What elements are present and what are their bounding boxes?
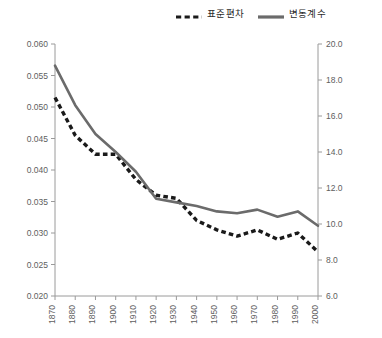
x-axis-tick-label: 1880 [67, 305, 77, 324]
left-axis: 0.0200.0250.0300.0350.0400.0450.0500.055… [27, 39, 55, 301]
right-axis-tick-label: 16.0 [326, 111, 343, 121]
left-axis-tick-label: 0.060 [27, 39, 49, 49]
x-axis-tick-label: 1980 [270, 305, 280, 324]
left-axis-tick-label: 0.025 [27, 260, 49, 270]
right-axis-tick-label: 10.0 [326, 219, 343, 229]
data-series-group [55, 66, 318, 252]
x-axis-tick-label: 2000 [310, 305, 320, 324]
left-axis-tick-label: 0.055 [27, 71, 49, 81]
x-axis-tick-label: 1890 [87, 305, 97, 324]
x-axis-tick-label: 1910 [128, 305, 138, 324]
left-axis-tick-label: 0.020 [27, 291, 49, 301]
left-axis-tick-label: 0.030 [27, 228, 49, 238]
right-axis: 6.08.010.012.014.016.018.020.0 [318, 39, 343, 301]
x-axis-tick-label: 1950 [209, 305, 219, 324]
series-line-standard-deviation [55, 98, 318, 252]
series-line-coefficient-of-variation [55, 66, 318, 226]
x-axis-tick-label: 1920 [148, 305, 158, 324]
x-axis-tick-label: 1990 [290, 305, 300, 324]
right-axis-tick-label: 8.0 [326, 255, 338, 265]
left-axis-tick-label: 0.045 [27, 134, 49, 144]
right-axis-tick-label: 20.0 [326, 39, 343, 49]
x-axis: 1870188018901900191019201930194019501960… [47, 296, 320, 324]
chart-figure: 표준편차 변동계수 0.0200.0250.0300.0350.0400.045… [0, 0, 382, 338]
x-axis-tick-label: 1940 [189, 305, 199, 324]
right-axis-tick-label: 12.0 [326, 183, 343, 193]
x-axis-tick-label: 1970 [249, 305, 259, 324]
left-axis-tick-label: 0.050 [27, 102, 49, 112]
left-axis-tick-label: 0.035 [27, 197, 49, 207]
x-axis-tick-label: 1960 [229, 305, 239, 324]
right-axis-tick-label: 6.0 [326, 291, 338, 301]
x-axis-tick-label: 1930 [168, 305, 178, 324]
x-axis-tick-label: 1900 [108, 305, 118, 324]
right-axis-tick-label: 14.0 [326, 147, 343, 157]
chart-plot: 0.0200.0250.0300.0350.0400.0450.0500.055… [0, 0, 382, 338]
left-axis-tick-label: 0.040 [27, 165, 49, 175]
right-axis-tick-label: 18.0 [326, 75, 343, 85]
x-axis-tick-label: 1870 [47, 305, 57, 324]
